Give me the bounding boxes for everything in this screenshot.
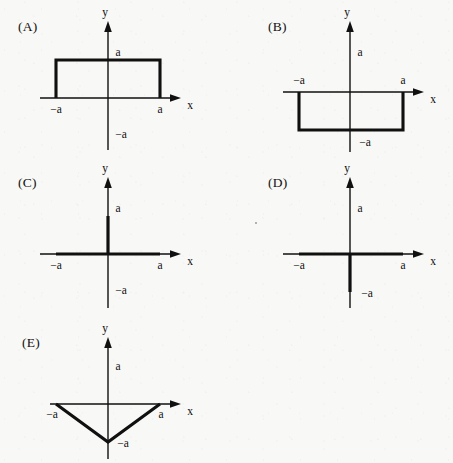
panel-b-plot: y x a −a −a a <box>275 8 453 160</box>
panel-e-tick-x-pos: a <box>158 408 163 420</box>
panel-d-tick-x-pos: a <box>400 259 405 271</box>
panel-a-x-arrowhead <box>170 94 181 102</box>
panel-a-y-axis-label: y <box>102 8 108 19</box>
panel-b-y-axis-label: y <box>344 8 350 19</box>
panel-c-x-arrowhead <box>170 250 181 258</box>
panel-d: (D) y x a −a −a a <box>227 160 453 320</box>
panel-b-tick-x-pos: a <box>400 74 405 86</box>
panel-a-y-arrowhead <box>104 21 112 32</box>
panel-c-x-axis-label: x <box>187 255 193 267</box>
panel-e-plot: y x a −a −a a <box>22 324 222 463</box>
panel-e-x-arrowhead <box>170 400 181 408</box>
panel-d-tick-y-neg: −a <box>361 287 373 299</box>
panel-d-x-axis-label: x <box>430 255 436 267</box>
panel-c-plot: y x a −a −a a <box>22 164 207 316</box>
panel-a-tick-y-pos: a <box>115 46 120 58</box>
panel-b-tick-x-neg: −a <box>293 74 305 86</box>
panel-b-y-arrowhead <box>346 21 354 32</box>
panel-c: (C) y x a −a −a a <box>0 160 227 320</box>
panel-d-tick-x-neg: −a <box>293 259 305 271</box>
scan-speck <box>255 222 257 224</box>
panel-d-y-axis-label: y <box>344 164 350 175</box>
panel-a-tick-x-pos: a <box>157 103 162 115</box>
panel-e: (E) y x a −a −a a <box>0 320 300 463</box>
panel-e-tick-x-neg: −a <box>46 408 58 420</box>
panel-c-tick-x-neg: −a <box>50 259 62 271</box>
panel-b-x-axis-label: x <box>430 93 436 105</box>
panel-a-tick-x-neg: −a <box>50 103 62 115</box>
panel-a-tick-y-neg: −a <box>115 128 127 140</box>
panel-b-tick-y-pos: a <box>357 46 362 58</box>
panel-a-plot: y x a −a −a a <box>22 8 207 158</box>
panel-e-tick-y-pos: a <box>115 360 120 372</box>
figure-canvas: (A) y x a −a −a a (B) <box>0 0 453 463</box>
panel-c-tick-y-neg: −a <box>115 284 127 296</box>
panel-a: (A) y x a −a −a a <box>0 0 227 160</box>
panel-c-tick-y-pos: a <box>115 202 120 214</box>
panel-b: (B) y x a −a −a a <box>227 0 453 160</box>
panel-a-x-axis-label: x <box>187 99 193 111</box>
panel-b-tick-y-neg: −a <box>359 136 371 148</box>
panel-c-y-axis-label: y <box>102 164 108 175</box>
panel-e-y-axis-label: y <box>102 324 108 335</box>
panel-e-y-arrowhead <box>104 337 112 348</box>
panel-c-tick-x-pos: a <box>157 259 162 271</box>
panel-d-plot: y x a −a −a a <box>275 164 453 316</box>
panel-d-y-arrowhead <box>346 177 354 188</box>
panel-e-tick-y-neg: −a <box>117 437 129 449</box>
panel-d-x-arrowhead <box>413 250 424 258</box>
panel-c-y-arrowhead <box>104 177 112 188</box>
panel-b-curve <box>299 92 403 130</box>
panel-e-x-axis-label: x <box>187 405 193 417</box>
panel-b-x-arrowhead <box>413 88 424 96</box>
panel-d-tick-y-pos: a <box>357 202 362 214</box>
